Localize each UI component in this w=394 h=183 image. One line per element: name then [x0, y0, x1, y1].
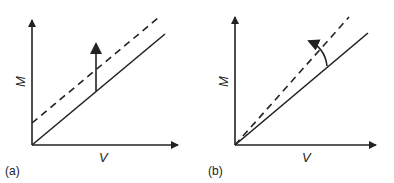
y-axis-label-a: M: [13, 76, 28, 87]
dashed-line-b: [235, 17, 349, 145]
solid-line-b: [235, 33, 368, 145]
diagram-svg: [0, 0, 394, 183]
dashed-line-a: [32, 18, 158, 123]
figure: M V (a) M V (b): [0, 0, 394, 183]
panel-label-a: (a): [5, 164, 20, 178]
solid-line-a: [32, 34, 165, 145]
x-axis-label-a: V: [99, 150, 108, 165]
panel-b: [235, 17, 376, 145]
panel-label-b: (b): [208, 164, 223, 178]
panel-a: [32, 18, 178, 145]
x-axis-label-b: V: [302, 150, 311, 165]
y-axis-label-b: M: [216, 76, 231, 87]
